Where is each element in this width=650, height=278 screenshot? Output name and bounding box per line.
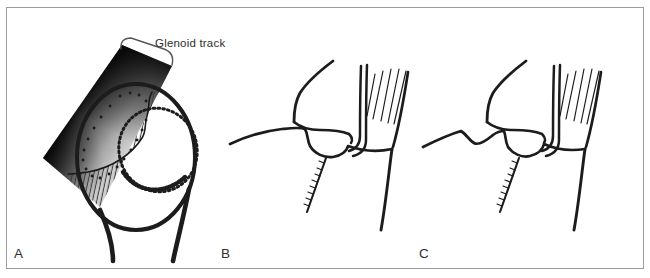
panel-letter-c: C — [419, 246, 429, 261]
glenoid-track-label: Glenoid track — [155, 37, 225, 49]
shoulder-illustration — [0, 0, 650, 278]
humeral-shaft-right — [173, 189, 189, 261]
humeral-head-contour-b — [230, 128, 392, 157]
panel-b-illustration — [230, 61, 408, 230]
panel-a-illustration — [43, 38, 207, 261]
panel-letter-a: A — [14, 246, 23, 261]
panel-c-illustration — [423, 61, 601, 230]
figure-canvas: Glenoid track A B C — [0, 0, 650, 278]
humeral-head-contour-c-with-notch — [423, 131, 585, 157]
humeral-shaft-left — [100, 210, 113, 261]
panel-letter-b: B — [221, 246, 230, 261]
